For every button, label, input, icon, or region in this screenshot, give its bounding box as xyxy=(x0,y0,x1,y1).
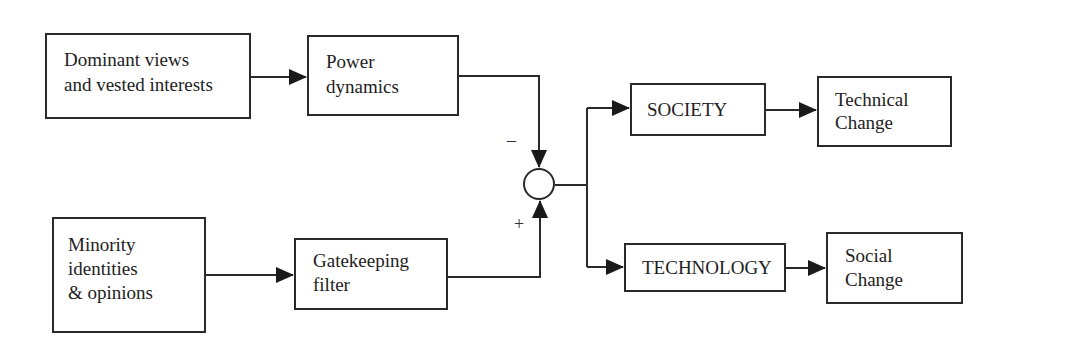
node-gatekeeping-line2: filter xyxy=(313,273,350,297)
node-society-label: SOCIETY xyxy=(647,98,727,122)
node-technical-change: Technical Change xyxy=(817,76,952,147)
node-minority-line1: Minority xyxy=(68,233,136,257)
node-power-dynamics: Power dynamics xyxy=(307,35,459,116)
node-technical-change-line1: Technical xyxy=(835,88,909,112)
node-dominant-views: Dominant views and vested interests xyxy=(45,33,251,119)
node-minority-identities: Minority identities & opinions xyxy=(52,217,206,333)
node-technology-label: TECHNOLOGY xyxy=(642,256,772,280)
node-technical-change-line2: Change xyxy=(835,111,893,135)
block-diagram: Dominant views and vested interests Powe… xyxy=(0,0,1081,348)
plus-sign: + xyxy=(514,214,524,235)
node-technology: TECHNOLOGY xyxy=(624,243,786,292)
summing-junction xyxy=(524,169,554,199)
arrow-power-to-junction xyxy=(458,76,539,167)
node-gatekeeping-line1: Gatekeeping xyxy=(313,249,409,273)
node-social-change-line1: Social xyxy=(845,244,893,268)
node-minority-line2: identities xyxy=(68,257,138,281)
node-dominant-line1: Dominant views xyxy=(64,48,189,72)
node-social-change-line2: Change xyxy=(845,268,903,292)
node-minority-line3: & opinions xyxy=(68,281,153,305)
node-society: SOCIETY xyxy=(630,83,766,136)
node-power-line2: dynamics xyxy=(326,75,399,99)
node-dominant-line2: and vested interests xyxy=(64,73,213,97)
arrow-gatekeeping-to-junction xyxy=(447,201,540,277)
node-power-line1: Power xyxy=(326,50,375,74)
node-gatekeeping-filter: Gatekeeping filter xyxy=(294,238,448,310)
node-social-change: Social Change xyxy=(826,232,963,304)
minus-sign: – xyxy=(507,130,516,151)
